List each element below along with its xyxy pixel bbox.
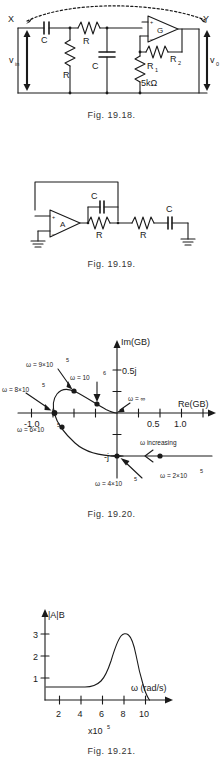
vo-arrow-up [204, 30, 211, 37]
figure-19-18: + _ G X Y C R R [0, 0, 223, 105]
amp-plus-sign: + [150, 19, 153, 25]
data-point-omega-6e5 [59, 424, 64, 429]
label-res-r1: R [147, 61, 154, 71]
label-fb-res-r: R [96, 230, 103, 240]
vin-arrow-down [24, 84, 31, 91]
xtick-label-4: 4 [78, 709, 83, 719]
real-axis-label: Re(GB) [178, 399, 209, 409]
xtick-label-2: 2 [56, 709, 61, 719]
label-res-r2-sub: 2 [178, 60, 181, 66]
data-point-omega-8e5 [52, 410, 58, 416]
label-omega-2e5: ω = 2×10 [160, 472, 188, 479]
junction-dot [87, 222, 90, 225]
label-omega-increasing: ω increasing [140, 439, 177, 447]
label-series-cap-c: C [166, 204, 173, 214]
label-vo-sub: 0 [216, 61, 219, 67]
fig-19-19-svg: + _ A C R R [0, 175, 223, 253]
junction-dot [117, 222, 120, 225]
label-res-r2: R [170, 54, 177, 64]
label-res-r1-sub: 1 [155, 67, 158, 73]
ytick-label-3: 3 [33, 630, 38, 640]
xtick-label-05: 0.5 [147, 419, 160, 429]
junction-dot [106, 92, 109, 95]
ytick-label-05j: 0.5j [122, 366, 137, 376]
xtick-label-1: 1.0 [174, 419, 187, 429]
junction-dot [69, 27, 72, 30]
x-axis-arrow [165, 697, 173, 704]
figure-19-20: Im(GB) Re(GB) 0.5j -j -1.0 0.5 1.0 ω = 9… [0, 300, 223, 500]
x-scale-note: x10 [88, 726, 103, 736]
label-vin-sub: in [15, 61, 19, 67]
real-axis-arrow [208, 410, 216, 417]
xtick-label-10: 10 [139, 709, 149, 719]
vo-arrow-down [204, 84, 211, 91]
res-r-shunt [65, 40, 75, 66]
res-r2 [146, 46, 168, 58]
x-scale-exp: 5 [107, 724, 110, 730]
label-omega-6e5-exp: 5 [57, 422, 60, 428]
ytick-label-2: 2 [33, 652, 38, 662]
res-series-r2 [132, 217, 154, 229]
node-label-x: X [8, 14, 14, 24]
label-omega-9e5: ω = 9×10 [26, 361, 54, 368]
label-omega-2e5-exp: 5 [200, 468, 203, 474]
data-point-omega-2e5 [157, 453, 162, 458]
label-omega-1e6: ω = 10 [70, 374, 90, 381]
data-point-omega-1e6 [94, 401, 99, 406]
label-omega-9e5-exp: 5 [66, 357, 69, 363]
label-res-r1-value: 5kΩ [141, 78, 158, 88]
res-fb-r [88, 217, 110, 229]
caption-fig-19-20: Fig. 19.20. [0, 509, 223, 519]
caption-fig-19-21: Fig. 19.21. [0, 746, 223, 756]
amp-a-gain-label: A [60, 220, 66, 229]
data-point-omega-4e5 [114, 453, 119, 458]
label-cap-c1: C [41, 35, 48, 45]
label-fb-cap-c: C [91, 191, 98, 201]
label-vin: v [9, 55, 14, 65]
label-omega-8e5: ω = 8×10 [2, 386, 30, 393]
amp-gain-label: G [157, 26, 163, 35]
label-omega-4e5-exp: 5 [134, 476, 137, 482]
leader-arrow-1e6 [94, 394, 101, 402]
vin-arrow-up [24, 30, 31, 37]
label-omega-infinity: ω = ∞ [128, 395, 145, 402]
label-res-r-shunt: R [63, 70, 70, 80]
xtick-label-6: 6 [99, 709, 104, 719]
amp-a-plus-sign: + [52, 214, 55, 220]
nyquist-curve [53, 390, 117, 456]
caption-fig-19-18: Fig. 19.18. [0, 110, 223, 120]
y-axis-label: |A|B [48, 610, 65, 620]
imag-axis-arrow [114, 340, 121, 348]
label-cap-c2: C [92, 61, 99, 71]
label-omega-4e5: ω = 4×10 [95, 480, 123, 487]
ytick-label-minus-j: -j [104, 452, 109, 462]
wire-outer-feedback [35, 182, 118, 221]
ytick-label-1: 1 [33, 674, 38, 684]
junction-dot [139, 92, 142, 95]
junction-dot [139, 51, 142, 54]
imag-axis-label: Im(GB) [121, 337, 150, 347]
leader-omega-8e5 [26, 393, 48, 408]
fig-19-21-svg: |A|B ω (rad/s) 1 2 3 2 4 6 8 10 x10 5 [0, 600, 223, 735]
fig-19-18-svg: + _ G X Y C R R [0, 0, 223, 105]
junction-dot [106, 27, 109, 30]
figure-19-19: + _ A C R R [0, 175, 223, 253]
leader-arrow-inf [117, 408, 125, 413]
feedback-arc [27, 6, 205, 21]
label-omega-8e5-exp: 5 [42, 382, 45, 388]
junction-dot [69, 92, 72, 95]
label-omega-6e5: ω = 6×10 [17, 426, 45, 433]
fig-19-20-svg: Im(GB) Re(GB) 0.5j -j -1.0 0.5 1.0 ω = 9… [0, 300, 223, 500]
label-res-r-series: R [83, 36, 90, 46]
leader-arrow-8e5 [45, 404, 52, 411]
node-label-y: Y [203, 14, 209, 24]
caption-fig-19-19: Fig. 19.19. [0, 259, 223, 269]
figure-19-21: |A|B ω (rad/s) 1 2 3 2 4 6 8 10 x10 5 [0, 600, 223, 735]
x-axis-label: ω (rad/s) [131, 683, 167, 693]
xtick-label-8: 8 [121, 709, 126, 719]
label-series-res-r: R [140, 230, 147, 240]
label-omega-1e6-exp: 6 [103, 370, 106, 376]
res-r-top [78, 22, 100, 34]
label-vo: v [210, 55, 215, 65]
